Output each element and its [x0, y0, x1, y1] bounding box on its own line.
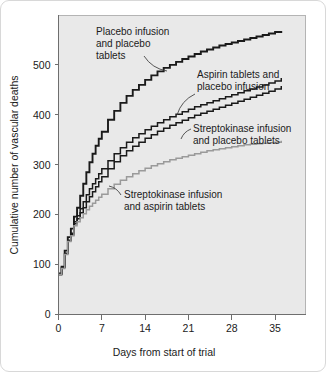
- streptokinase-placebo-annotation-line-1: and placebo tablets: [193, 135, 280, 146]
- placebo-annotation-line-2: tablets: [96, 50, 125, 61]
- streptokinase-placebo-annotation: Streptokinase infusionand placebo tablet…: [193, 123, 291, 146]
- x-tick-label: 0: [56, 322, 62, 334]
- aspirin-annotation-line-0: Aspirin tablets and: [197, 69, 279, 80]
- y-axis-ticks: 0100200300400500: [33, 59, 59, 321]
- y-tick-label: 0: [45, 308, 51, 320]
- aspirin-annotation-line-1: placebo infusion: [197, 81, 269, 92]
- streptokinase-aspirin-annotation-line-1: and aspirin tablets: [124, 201, 205, 212]
- y-axis-title: Cumulative number of vascular deaths: [8, 75, 20, 254]
- x-axis-ticks: 0714212835: [56, 315, 281, 334]
- x-tick-label: 21: [183, 322, 195, 334]
- x-tick-label: 35: [269, 322, 281, 334]
- x-tick-label: 7: [99, 322, 105, 334]
- aspirin-annotation: Aspirin tablets andplacebo infusion: [197, 69, 279, 92]
- placebo-annotation-line-0: Placebo infusion: [96, 26, 169, 37]
- y-tick-label: 200: [33, 208, 51, 220]
- x-axis-title: Days from start of trial: [113, 346, 216, 358]
- x-tick-label: 28: [226, 322, 238, 334]
- chart-figure: Placebo infusionand placebotabletsAspiri…: [1, 1, 326, 372]
- y-tick-label: 300: [33, 159, 51, 171]
- figure-card: Placebo infusionand placebotabletsAspiri…: [0, 0, 326, 372]
- x-tick-label: 14: [139, 322, 151, 334]
- y-tick-label: 400: [33, 109, 51, 121]
- y-tick-label: 500: [33, 59, 51, 71]
- streptokinase-placebo-annotation-line-0: Streptokinase infusion: [193, 123, 291, 134]
- streptokinase-aspirin-annotation-line-0: Streptokinase infusion: [124, 189, 222, 200]
- y-tick-label: 100: [33, 258, 51, 270]
- placebo-annotation-line-1: and placebo: [96, 38, 151, 49]
- chart-svg: Placebo infusionand placebotabletsAspiri…: [1, 1, 326, 372]
